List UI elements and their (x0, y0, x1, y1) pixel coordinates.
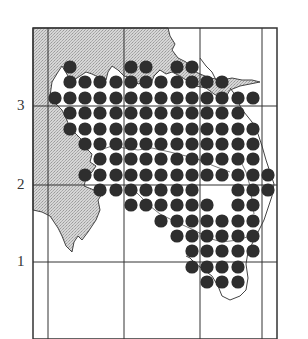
occurrence-dot (246, 122, 259, 135)
occurrence-dot (78, 122, 91, 135)
occurrence-dot (185, 137, 198, 150)
occurrence-dot (109, 91, 122, 104)
occurrence-dot (246, 198, 259, 211)
occurrence-dot (200, 137, 213, 150)
occurrence-dot (170, 60, 183, 73)
occurrence-dot (231, 214, 244, 227)
occurrence-dot (246, 214, 259, 227)
occurrence-dot (200, 260, 213, 273)
occurrence-dot (109, 168, 122, 181)
occurrence-dot (63, 60, 76, 73)
occurrence-dot (139, 168, 152, 181)
coastline-right (186, 58, 274, 300)
occurrence-dot (170, 106, 183, 119)
occurrence-dot (93, 137, 106, 150)
occurrence-dot (231, 168, 244, 181)
occurrence-dot (93, 91, 106, 104)
occurrence-dot (154, 106, 167, 119)
occurrence-dot (231, 244, 244, 257)
y-label-3: 3 (17, 98, 25, 113)
occurrence-dot (200, 198, 213, 211)
occurrence-dot (154, 75, 167, 88)
occurrence-dot (154, 152, 167, 165)
occurrence-dot (215, 260, 228, 273)
occurrence-dot (154, 214, 167, 227)
occurrence-dot (154, 168, 167, 181)
occurrence-dot (170, 152, 183, 165)
occurrence-dot (231, 183, 244, 196)
occurrence-dot (185, 260, 198, 273)
occurrence-dot (93, 75, 106, 88)
occurrence-dot (109, 137, 122, 150)
occurrence-dot (231, 275, 244, 288)
occurrence-dot (200, 214, 213, 227)
occurrence-dot (109, 152, 122, 165)
occurrence-dot (124, 152, 137, 165)
occurrence-dot (215, 152, 228, 165)
occurrence-dot (139, 137, 152, 150)
occurrence-dot (200, 168, 213, 181)
occurrence-dot (215, 214, 228, 227)
occurrence-dot (124, 106, 137, 119)
occurrence-dot (154, 137, 167, 150)
occurrence-dot (185, 60, 198, 73)
occurrence-dot (231, 137, 244, 150)
occurrence-dot (231, 91, 244, 104)
occurrence-dot (63, 75, 76, 88)
occurrence-dot (124, 91, 137, 104)
occurrence-dot (185, 168, 198, 181)
occurrence-dot (170, 91, 183, 104)
occurrence-dot (246, 91, 259, 104)
occurrence-dot (139, 198, 152, 211)
occurrence-dot (246, 168, 259, 181)
occurrence-dot (139, 60, 152, 73)
occurrence-dot (185, 183, 198, 196)
occurrence-dot (200, 244, 213, 257)
occurrence-dot (185, 122, 198, 135)
occurrence-dot (78, 91, 91, 104)
occurrence-dot (185, 75, 198, 88)
occurrence-dot (185, 244, 198, 257)
occurrence-dot (246, 244, 259, 257)
occurrence-dots (48, 60, 274, 288)
occurrence-dot (185, 152, 198, 165)
occurrence-dot (124, 198, 137, 211)
occurrence-dot (200, 122, 213, 135)
occurrence-dot (139, 183, 152, 196)
occurrence-dot (246, 152, 259, 165)
occurrence-dot (200, 75, 213, 88)
occurrence-dot (139, 122, 152, 135)
occurrence-dot (231, 229, 244, 242)
occurrence-dot (200, 275, 213, 288)
occurrence-dot (215, 244, 228, 257)
occurrence-dot (185, 198, 198, 211)
occurrence-dot (200, 229, 213, 242)
y-label-1: 1 (17, 254, 25, 269)
occurrence-dot (231, 122, 244, 135)
occurrence-dot (93, 152, 106, 165)
occurrence-dot (93, 168, 106, 181)
occurrence-dot (215, 137, 228, 150)
occurrence-dot (215, 106, 228, 119)
occurrence-dot (124, 60, 137, 73)
occurrence-dot (109, 183, 122, 196)
occurrence-dot (93, 122, 106, 135)
occurrence-dot (231, 260, 244, 273)
occurrence-dot (154, 198, 167, 211)
occurrence-dot (139, 91, 152, 104)
occurrence-dot (124, 137, 137, 150)
distribution-map (0, 0, 308, 339)
occurrence-dot (139, 152, 152, 165)
occurrence-dot (215, 75, 228, 88)
occurrence-dot (63, 122, 76, 135)
occurrence-dot (48, 91, 61, 104)
occurrence-dot (170, 122, 183, 135)
occurrence-dot (185, 229, 198, 242)
occurrence-dot (200, 106, 213, 119)
occurrence-dot (124, 168, 137, 181)
occurrence-dot (200, 152, 213, 165)
occurrence-dot (78, 106, 91, 119)
occurrence-dot (185, 91, 198, 104)
y-label-2: 2 (17, 177, 25, 192)
occurrence-dot (231, 152, 244, 165)
